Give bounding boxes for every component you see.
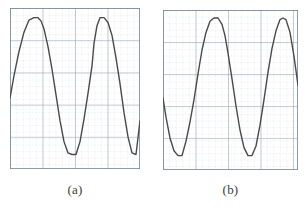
- waveform-chart-a: [10, 8, 140, 169]
- major-gridlines-b: [163, 10, 298, 170]
- plot-panel-b: [163, 10, 298, 170]
- plot-area-a: [10, 8, 140, 169]
- figure-container: (a) (b): [0, 0, 308, 208]
- plot-area-b: [163, 10, 298, 170]
- caption-a: (a): [10, 183, 140, 196]
- waveform-chart-b: [163, 10, 298, 170]
- caption-b: (b): [163, 183, 298, 196]
- plot-panel-a: [10, 8, 140, 169]
